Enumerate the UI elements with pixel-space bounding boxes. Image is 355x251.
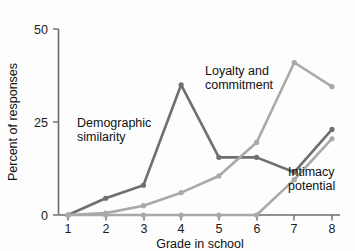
y-axis-title: Percent of responses bbox=[6, 63, 20, 181]
x-tick-label-3: 3 bbox=[141, 222, 148, 236]
x-tick-label-2: 2 bbox=[103, 222, 110, 236]
x-tick-label-1: 1 bbox=[65, 222, 72, 236]
line-chart: 50 25 0 Percent of responses 1 2 3 4 5 6… bbox=[0, 0, 355, 251]
annotation-intimacy-line1: Intimacy bbox=[288, 165, 335, 179]
annotation-loyalty-line1: Loyalty and bbox=[205, 64, 269, 78]
x-tick-label-4: 4 bbox=[178, 222, 185, 236]
annotation-intimacy-potential: Intimacy potential bbox=[288, 165, 335, 193]
data-point bbox=[292, 60, 297, 65]
x-tick-label-7: 7 bbox=[291, 222, 298, 236]
x-tick-label-8: 8 bbox=[329, 222, 336, 236]
series-demographic-similarity bbox=[65, 82, 334, 217]
data-point bbox=[141, 183, 146, 188]
data-point bbox=[254, 140, 259, 145]
annotation-demographic-similarity: Demographic similarity bbox=[77, 116, 151, 144]
data-point bbox=[254, 212, 259, 217]
y-tick-label-0: 0 bbox=[41, 209, 48, 223]
data-point bbox=[329, 127, 334, 132]
data-point bbox=[103, 196, 108, 201]
data-point bbox=[329, 136, 334, 141]
y-tick-label-25: 25 bbox=[34, 116, 48, 130]
data-point bbox=[65, 212, 70, 217]
annotation-demographic-line2: similarity bbox=[77, 130, 126, 144]
annotation-loyalty-commitment: Loyalty and commitment bbox=[205, 64, 274, 92]
data-point bbox=[329, 84, 334, 89]
data-point bbox=[141, 203, 146, 208]
series-line bbox=[68, 85, 332, 215]
data-point bbox=[216, 212, 221, 217]
x-tick-label-5: 5 bbox=[216, 222, 223, 236]
annotation-loyalty-line2: commitment bbox=[205, 78, 274, 92]
data-point bbox=[179, 82, 184, 87]
annotation-demographic-line1: Demographic bbox=[77, 116, 151, 130]
data-point bbox=[216, 173, 221, 178]
annotation-intimacy-line2: potential bbox=[288, 179, 335, 193]
data-point bbox=[254, 155, 259, 160]
data-point bbox=[103, 212, 108, 217]
y-tick-label-50: 50 bbox=[34, 23, 48, 37]
data-point bbox=[216, 155, 221, 160]
data-point bbox=[141, 212, 146, 217]
x-axis-title: Grade in school bbox=[156, 237, 244, 251]
data-point bbox=[179, 190, 184, 195]
chart-canvas: 50 25 0 Percent of responses 1 2 3 4 5 6… bbox=[0, 0, 355, 251]
data-point bbox=[179, 212, 184, 217]
x-tick-label-6: 6 bbox=[254, 222, 261, 236]
